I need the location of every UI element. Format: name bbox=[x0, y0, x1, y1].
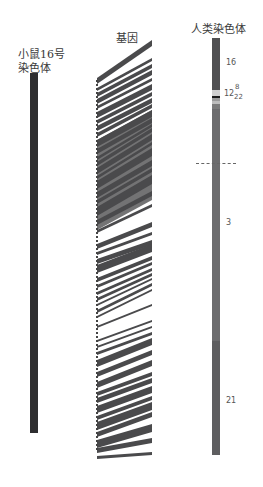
segment-label-12: 12 bbox=[224, 89, 234, 98]
human-segment bbox=[212, 109, 220, 341]
segment-label-3: 3 bbox=[226, 218, 231, 227]
human-chr-title: 人类染色体 bbox=[191, 23, 246, 37]
segment-label-8: 8 bbox=[235, 83, 239, 91]
dashed-boundary-line bbox=[196, 163, 236, 164]
gene-stripe bbox=[97, 452, 152, 459]
segment-label-21: 21 bbox=[226, 396, 236, 405]
segment-label-16: 16 bbox=[226, 58, 236, 67]
gene-stripe bbox=[97, 268, 152, 295]
gene-stripes bbox=[0, 0, 263, 487]
gene-stripe bbox=[97, 289, 152, 318]
human-segment bbox=[212, 38, 220, 90]
segment-label-22: 22 bbox=[234, 93, 243, 101]
human-segment bbox=[212, 341, 220, 455]
human-chromosome-bar bbox=[212, 38, 220, 455]
